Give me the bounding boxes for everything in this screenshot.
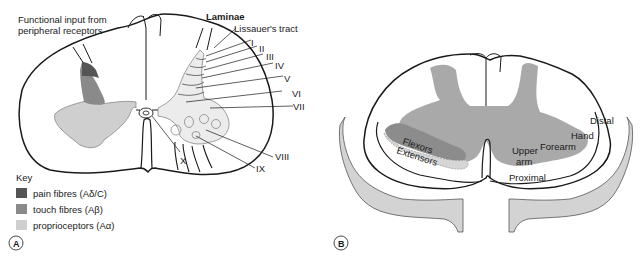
key-title: Key (16, 172, 33, 183)
dorsal-septum (143, 16, 146, 100)
spinal-cord-diagram: Functional input from peripheral recepto… (0, 0, 643, 261)
ventral-fissure (141, 119, 152, 169)
upper-label: Upper (512, 145, 538, 156)
lamina-label-vii: VII (293, 101, 305, 112)
dorsal-root-right (196, 28, 212, 50)
key-swatch-touch (16, 204, 27, 214)
panel-a: Functional input from peripheral recepto… (9, 11, 305, 250)
central-canal (139, 108, 153, 118)
distal-label: Distal (590, 115, 614, 126)
lissauer-label: Lissauer's tract (234, 23, 298, 34)
key-swatch-pain (16, 188, 27, 198)
lamina-label-x: X (180, 155, 187, 166)
lamina-label-viii: VIII (275, 151, 289, 162)
lamina-label-ix: IX (256, 163, 266, 174)
key-label-proprioceptors: proprioceptors (Aα) (33, 220, 115, 231)
arm-label: arm (516, 156, 532, 167)
key-label-pain: pain fibres (Aδ/C) (33, 188, 107, 199)
forearm-label: Forearm (540, 141, 576, 152)
panel-b-badge: B (338, 239, 345, 249)
panel-b: Flexors Extensors Upper arm Forearm Hand… (334, 54, 633, 250)
hand-label: Hand (571, 130, 594, 141)
proprioceptor-region (55, 101, 136, 148)
right-grey-matter (158, 50, 229, 144)
proximal-label: Proximal (509, 172, 546, 183)
lamina-label-ii: II (259, 43, 264, 54)
lamina-label-iii: III (266, 51, 274, 62)
input-heading-line1: Functional input from (18, 14, 107, 25)
laminae-title: Laminae (206, 11, 245, 22)
lamina-label-i: I (251, 37, 254, 48)
input-heading-line2: peripheral receptors (18, 25, 103, 36)
lamina-label-v: V (284, 73, 291, 84)
key-swatch-proprioceptors (16, 220, 27, 230)
key-label-touch: touch fibres (Aβ) (33, 204, 103, 215)
panel-a-badge: A (13, 239, 20, 249)
pain-fibres-region (82, 62, 99, 78)
lamina-label-vi: VI (292, 88, 301, 99)
lamina-label-iv: IV (275, 60, 285, 71)
dorsal-sulcus-left (128, 16, 144, 28)
